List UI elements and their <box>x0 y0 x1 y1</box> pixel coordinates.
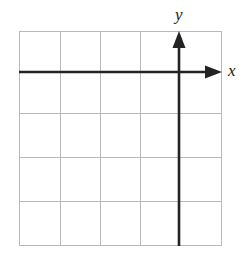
grid-vertical-lines <box>20 31 222 246</box>
coordinate-grid-figure: y x <box>0 0 250 266</box>
y-axis <box>173 31 186 246</box>
x-axis <box>19 66 222 79</box>
y-axis-label: y <box>175 6 183 23</box>
coordinate-plane-svg <box>0 0 250 266</box>
x-axis-label: x <box>228 62 236 79</box>
x-axis-arrowhead <box>205 66 222 79</box>
grid-horizontal-lines <box>19 32 222 246</box>
y-axis-arrowhead <box>173 31 186 48</box>
